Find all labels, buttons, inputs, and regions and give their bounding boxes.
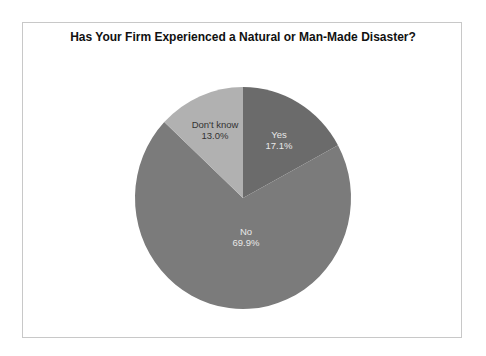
label-yes-name: Yes [271, 129, 287, 140]
label-no-value: 69.9% [233, 237, 260, 248]
pie-chart: Yes 17.1% No 69.9% Don't know 13.0% [0, 0, 486, 356]
label-dont-know-value: 13.0% [202, 130, 229, 141]
label-dont-know-name: Don't know [192, 119, 239, 130]
label-no-name: No [240, 226, 252, 237]
label-yes-value: 17.1% [266, 140, 293, 151]
